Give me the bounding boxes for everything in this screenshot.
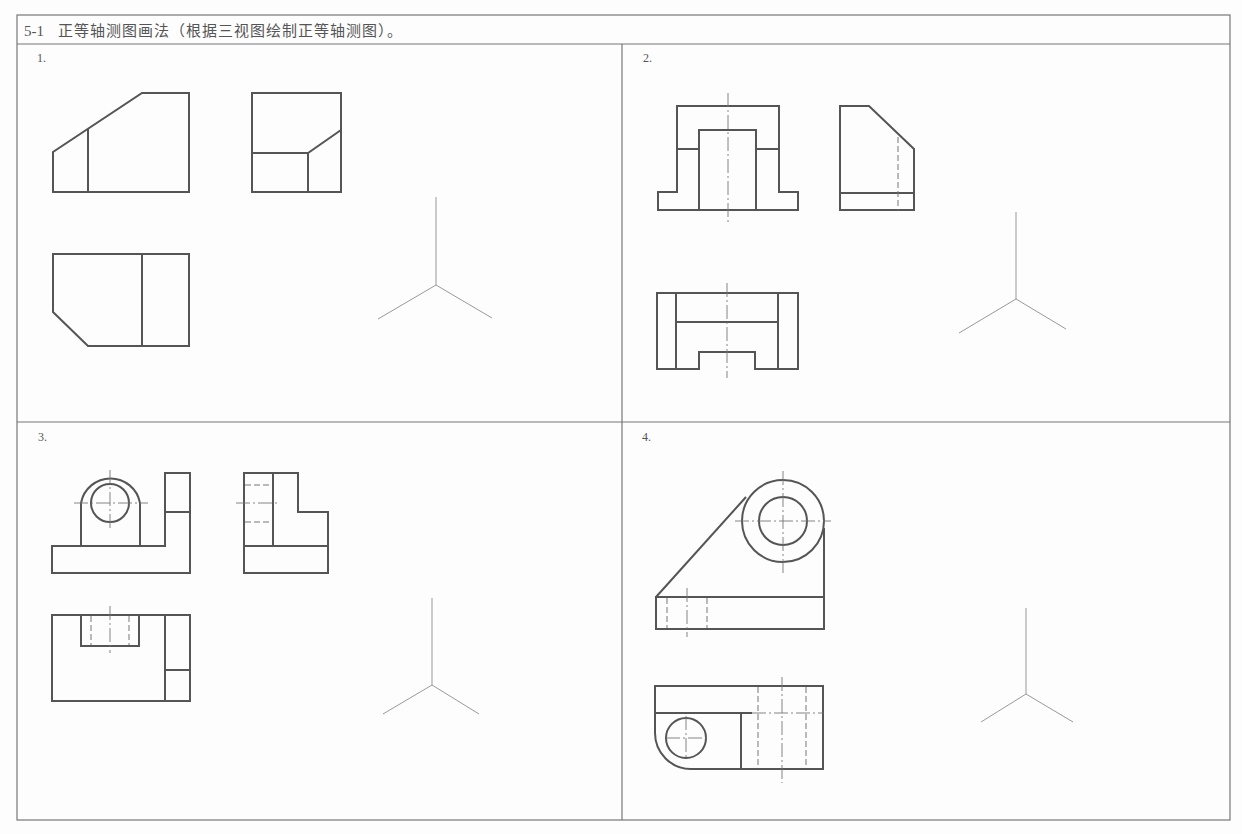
problem-3-front-view — [52, 470, 190, 573]
drawing-canvas — [0, 0, 1242, 834]
problem-2-side-view — [840, 106, 914, 210]
problem-4-front-view — [656, 471, 831, 637]
problem-1-front-view — [53, 93, 189, 192]
problem-2-isometric-axes — [959, 212, 1066, 333]
problem-4-isometric-axes — [981, 608, 1073, 722]
problem-3-top-view — [52, 606, 190, 701]
problem-2-front-view — [658, 93, 798, 225]
problem-1-top-view — [53, 254, 189, 346]
problem-4-top-view — [655, 677, 823, 783]
problem-2-top-view — [657, 283, 798, 378]
worksheet: 5-1正等轴测图画法（根据三视图绘制正等轴测图）。 1. 2. 3. 4. — [0, 0, 1242, 834]
problem-3-isometric-axes — [383, 598, 479, 714]
sheet-frame — [17, 15, 1230, 820]
problem-3-side-view — [236, 473, 328, 573]
problem-1-side-view — [252, 93, 341, 192]
problem-1-isometric-axes — [378, 197, 492, 319]
